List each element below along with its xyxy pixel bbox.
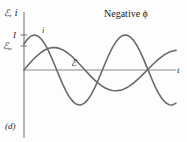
plot-canvas xyxy=(0,0,187,142)
emf-subscript: m xyxy=(8,46,12,51)
x-axis-label: t xyxy=(177,66,180,75)
panel-label: (d) xyxy=(5,122,16,131)
tick-label-current-amplitude: I xyxy=(13,31,16,40)
figure-panel: ℰ, i I ℰm i ℰ Negative ϕ t (d) xyxy=(0,0,187,142)
y-axis-label: ℰ, i xyxy=(4,9,18,18)
tick-label-emf-amplitude: ℰm xyxy=(3,42,12,51)
curve-label-current: i xyxy=(42,27,44,35)
phase-annotation: Negative ϕ xyxy=(104,9,148,19)
curve-label-emf: ℰ xyxy=(71,59,76,68)
curve-emf xyxy=(24,48,176,91)
